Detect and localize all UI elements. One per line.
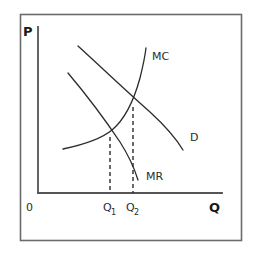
tick-label-q2-sub: 2	[134, 208, 139, 217]
marginal-revenue-label: MR	[146, 170, 163, 183]
marginal-cost-label: MC	[152, 50, 169, 63]
tick-label-q1-sub: 1	[111, 208, 116, 217]
demand-label: D	[190, 131, 198, 144]
economics-diagram: P Q 0 MC D MR Q 1 Q 2	[0, 0, 262, 255]
y-axis-label: P	[23, 24, 33, 39]
x-axis-label: Q	[209, 200, 220, 215]
origin-label: 0	[26, 201, 33, 214]
